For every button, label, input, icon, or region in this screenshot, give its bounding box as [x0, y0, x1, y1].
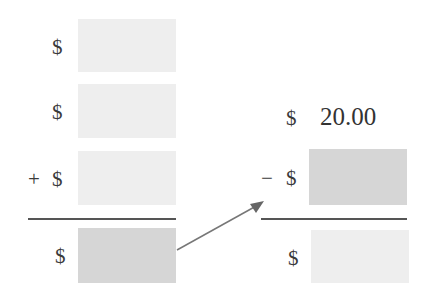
transfer-arrow-icon — [0, 0, 428, 302]
